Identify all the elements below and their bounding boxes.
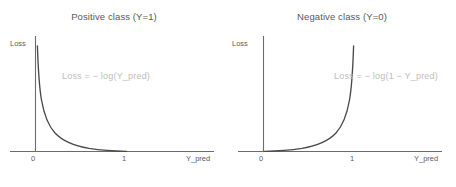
loss-curve: [37, 46, 126, 151]
loss-curves-figure: Positive class (Y=1) Loss 0 1 Y_pred Los…: [0, 0, 456, 187]
y-axis-label: Loss: [10, 39, 26, 48]
panel-positive-class: Positive class (Y=1) Loss 0 1 Y_pred Los…: [0, 0, 228, 187]
equation-annotation: Loss = − log(1 − Y_pred): [334, 71, 438, 81]
x-tick-label-0: 0: [259, 154, 263, 163]
panel-negative-class: Negative class (Y=0) Loss 0 1 Y_pred Los…: [228, 0, 456, 187]
x-axis-label: Y_pred: [414, 154, 438, 163]
x-axis-label: Y_pred: [186, 154, 210, 163]
loss-curve: [265, 46, 354, 151]
x-tick-label-0: 0: [31, 154, 35, 163]
x-tick-label-1: 1: [350, 154, 354, 163]
x-tick-label-1: 1: [122, 154, 126, 163]
equation-annotation: Loss = − log(Y_pred): [62, 71, 150, 81]
y-axis-label: Loss: [232, 39, 248, 48]
